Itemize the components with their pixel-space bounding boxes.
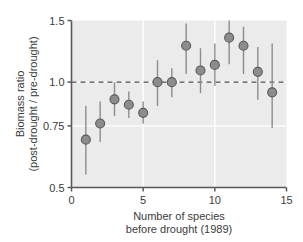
y-axis-title-line-2: (post-drought / pre-drought) xyxy=(27,36,39,171)
y-tick-label: 0.5 xyxy=(49,182,64,194)
x-tick-label: 15 xyxy=(280,194,292,206)
data-point xyxy=(96,119,105,128)
x-tick-label: 0 xyxy=(68,194,74,206)
x-axis-title-line-1: Number of species xyxy=(133,210,225,222)
x-tick-label: 5 xyxy=(140,194,146,206)
data-point xyxy=(124,100,133,109)
data-point xyxy=(139,108,148,117)
data-point xyxy=(268,88,277,97)
plot-panel-background xyxy=(72,21,287,188)
y-tick-label: 0.75 xyxy=(43,120,64,132)
data-point xyxy=(239,41,248,50)
data-point xyxy=(110,95,119,104)
chart-figure: 051015 0.50.751.01.5 Number of species b… xyxy=(0,0,303,242)
x-axis-title-line-2: before drought (1989) xyxy=(126,223,232,235)
data-point xyxy=(210,60,219,69)
x-tick-label: 10 xyxy=(209,194,221,206)
data-point xyxy=(167,78,176,87)
data-point xyxy=(182,41,191,50)
data-point xyxy=(196,66,205,75)
data-point xyxy=(153,78,162,87)
data-point xyxy=(81,135,90,144)
y-tick-label: 1.0 xyxy=(49,76,64,88)
data-point xyxy=(253,67,262,76)
data-point xyxy=(225,33,234,42)
y-axis-title-line-1: Biomass ratio xyxy=(14,71,26,138)
biomass-ratio-scatter-chart: 051015 0.50.751.01.5 Number of species b… xyxy=(0,0,303,242)
y-tick-label: 1.5 xyxy=(49,15,64,27)
